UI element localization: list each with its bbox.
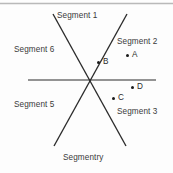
segment-label-3: Segment 3: [117, 108, 158, 116]
point-b-label: B: [103, 58, 108, 66]
segment-label-4: Segmentry: [63, 154, 104, 162]
diagram-canvas: [0, 0, 173, 173]
point-c-label: C: [118, 94, 124, 102]
segment-label-5: Segment 5: [14, 101, 55, 109]
segment-label-6: Segment 6: [14, 46, 55, 54]
segment-label-1: Segment 1: [57, 12, 98, 20]
segment-diagram: Segment 1 Segment 2 Segment 3 Segment 5 …: [0, 0, 173, 173]
point-a-label: A: [132, 51, 137, 59]
segment-label-2: Segment 2: [117, 38, 158, 46]
point-d-label: D: [137, 83, 143, 91]
